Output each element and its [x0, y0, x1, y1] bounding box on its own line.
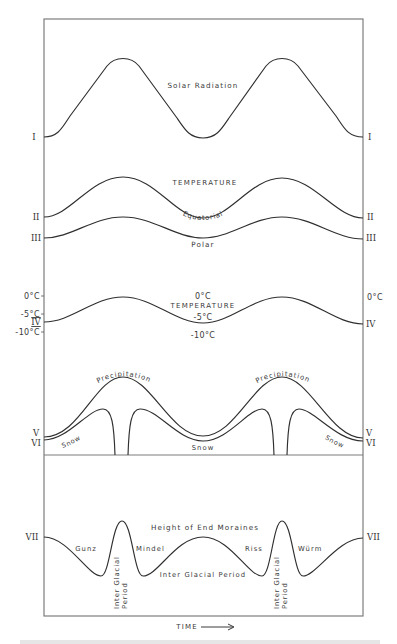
row-label-left-VI: VI: [30, 438, 41, 448]
row-label-left-V: V: [32, 428, 40, 438]
row-label-left-III: III: [31, 233, 41, 243]
label-0c-center: 0°C: [195, 292, 211, 301]
label-minus5c-center: -5°C: [193, 313, 212, 322]
label-polar: Polar: [191, 240, 214, 249]
label-mindel: Mindel: [136, 545, 165, 553]
cutoff-caption: [20, 640, 380, 644]
inter-glacial-vertical-2-line2: Period: [281, 582, 289, 609]
glacial-climate-diagram: I II III IV V VI VII I II III IV V VI VI…: [0, 0, 397, 644]
scale-left-0c: 0°C: [24, 292, 40, 301]
label-height-of-end-moraines: Height of End Moraines: [151, 523, 259, 532]
label-snow-right: Snow: [324, 434, 346, 450]
row-label-right-I: I: [368, 132, 371, 142]
label-wurm: Würm: [298, 545, 322, 553]
row-label-right-III: III: [366, 233, 376, 243]
row-label-left-II: II: [33, 212, 40, 222]
inter-glacial-vertical-label-2: Inter Glacial Period: [273, 556, 289, 609]
precipitation-curve: [44, 377, 363, 438]
label-minus10c-center: -10°C: [191, 331, 216, 340]
scale-right-0c: 0°C: [367, 293, 383, 302]
row-label-right-II: II: [367, 212, 374, 222]
scale-left-minus5c: -5°C: [21, 310, 40, 319]
row-label-right-V: V: [365, 428, 373, 438]
inter-glacial-vertical-label-1: Inter Glacial Period: [113, 556, 129, 609]
inter-glacial-vertical-1-line1: Inter Glacial: [113, 556, 121, 609]
row-label-right-VI: VI: [365, 438, 376, 448]
solar-radiation-curve: [44, 59, 363, 139]
label-gunz: Gunz: [75, 545, 97, 553]
label-temperature-2: TEMPERATURE: [169, 302, 235, 310]
label-inter-glacial-center: Inter Glacial Period: [160, 571, 246, 579]
row-label-left-VII: VII: [25, 532, 39, 542]
label-precipitation-right: Precipitation: [254, 370, 311, 385]
row-label-right-IV: IV: [366, 319, 376, 329]
label-riss: Riss: [245, 545, 263, 553]
time-arrow-icon: [201, 624, 234, 630]
label-snow-center: Snow: [192, 444, 215, 452]
label-snow-left: Snow: [61, 434, 83, 450]
inter-glacial-vertical-2-line1: Inter Glacial: [273, 556, 281, 609]
row-label-left-I: I: [32, 132, 35, 142]
label-precipitation-left: Precipitation: [95, 370, 152, 385]
time-axis-label: TIME: [175, 623, 198, 631]
inter-glacial-vertical-1-line2: Period: [121, 582, 129, 609]
scale-left-minus10c: -10°C: [15, 328, 40, 337]
row-label-right-VII: VII: [366, 532, 380, 542]
label-solar-radiation: Solar Radiation: [167, 81, 238, 90]
label-equatorial: Equatorial: [182, 210, 225, 222]
label-temperature-1: TEMPERATURE: [171, 179, 237, 187]
